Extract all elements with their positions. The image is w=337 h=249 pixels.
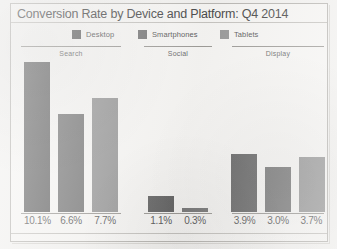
bar-slot xyxy=(299,62,325,212)
bar-smartphones xyxy=(58,114,84,212)
chart-legend: Desktop Smartphones Tablets xyxy=(20,28,320,42)
legend-item-smartphones: Smartphones xyxy=(138,28,198,40)
group-label-social: Social xyxy=(144,50,212,57)
bar-slot xyxy=(148,62,174,212)
chart-screenshot: Conversion Rate by Device and Platform: … xyxy=(0,0,337,249)
bar-smartphones xyxy=(182,208,208,212)
legend-item-tablets: Tablets xyxy=(220,28,258,40)
legend-swatch-smartphones xyxy=(138,30,147,39)
bar-value-label: 3.9% xyxy=(232,215,257,226)
bar-group-social: Social 1.1%0.3% xyxy=(144,46,212,234)
legend-swatch-tablets xyxy=(220,30,229,39)
group-divider xyxy=(21,46,121,47)
bar-value-label: 3.7% xyxy=(299,215,324,226)
title-divider xyxy=(11,22,327,23)
bar-value-label: 3.0% xyxy=(265,215,290,226)
bar-tablets xyxy=(92,98,118,212)
plot-area: Search 10.1%6.6%7.7% Social 1.1%0.3% Dis… xyxy=(11,46,327,234)
bar-value-label: 7.7% xyxy=(92,215,118,226)
bar-group-search: Search 10.1%6.6%7.7% xyxy=(21,46,121,234)
bar-slot xyxy=(92,62,118,212)
bar-slot xyxy=(24,62,50,212)
bar-value-label: 1.1% xyxy=(148,215,174,226)
legend-item-desktop: Desktop xyxy=(72,28,114,40)
bar-slot xyxy=(231,62,257,212)
bars-display xyxy=(232,62,324,212)
group-divider xyxy=(232,46,324,47)
legend-label-desktop: Desktop xyxy=(86,30,114,39)
bars-search xyxy=(21,62,121,212)
group-divider xyxy=(144,46,212,47)
legend-label-smartphones: Smartphones xyxy=(152,30,198,39)
bars-social xyxy=(144,62,212,212)
bar-desktop xyxy=(231,154,257,212)
bar-value-label: 10.1% xyxy=(24,215,50,226)
axis-line xyxy=(21,213,121,214)
bar-tablets xyxy=(299,157,325,212)
page-title: Conversion Rate by Device and Platform: … xyxy=(17,7,288,21)
bar-slot xyxy=(58,62,84,212)
value-labels-display: 3.9%3.0%3.7% xyxy=(232,215,324,226)
value-labels-search: 10.1%6.6%7.7% xyxy=(21,215,121,226)
bottom-divider xyxy=(11,233,327,234)
bar-smartphones xyxy=(265,167,291,212)
bar-value-label: 6.6% xyxy=(58,215,84,226)
group-label-search: Search xyxy=(21,50,121,57)
bar-group-display: Display 3.9%3.0%3.7% xyxy=(232,46,324,234)
bar-slot xyxy=(182,62,208,212)
bar-desktop xyxy=(148,196,174,212)
bar-value-label: 0.3% xyxy=(182,215,208,226)
axis-line xyxy=(144,213,212,214)
legend-label-tablets: Tablets xyxy=(234,30,258,39)
bar-slot xyxy=(265,62,291,212)
value-labels-social: 1.1%0.3% xyxy=(144,215,212,226)
axis-line xyxy=(232,213,324,214)
legend-swatch-desktop xyxy=(72,30,81,39)
bar-desktop xyxy=(24,62,50,212)
group-label-display: Display xyxy=(232,50,324,57)
